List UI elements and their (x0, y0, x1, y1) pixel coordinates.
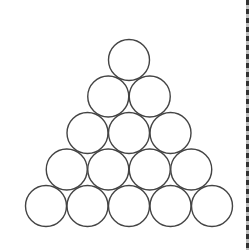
circle-row5-3 (109, 186, 150, 227)
circle-row4-4 (171, 149, 212, 190)
circle-row2-1 (88, 76, 129, 117)
circle-row3-2 (109, 113, 150, 154)
circle-pyramid-diagram (0, 0, 252, 250)
circle-row3-3 (150, 113, 191, 154)
circle-row4-2 (88, 149, 129, 190)
circle-row4-3 (129, 149, 170, 190)
circle-row5-4 (150, 186, 191, 227)
circle-row3-1 (67, 113, 108, 154)
circle-row5-1 (26, 186, 67, 227)
circle-row4-1 (46, 149, 87, 190)
circle-row5-5 (192, 186, 233, 227)
circle-row1-1 (109, 40, 150, 81)
page-edge-dashed-line (246, 0, 249, 250)
circle-row2-2 (129, 76, 170, 117)
circle-row5-2 (67, 186, 108, 227)
